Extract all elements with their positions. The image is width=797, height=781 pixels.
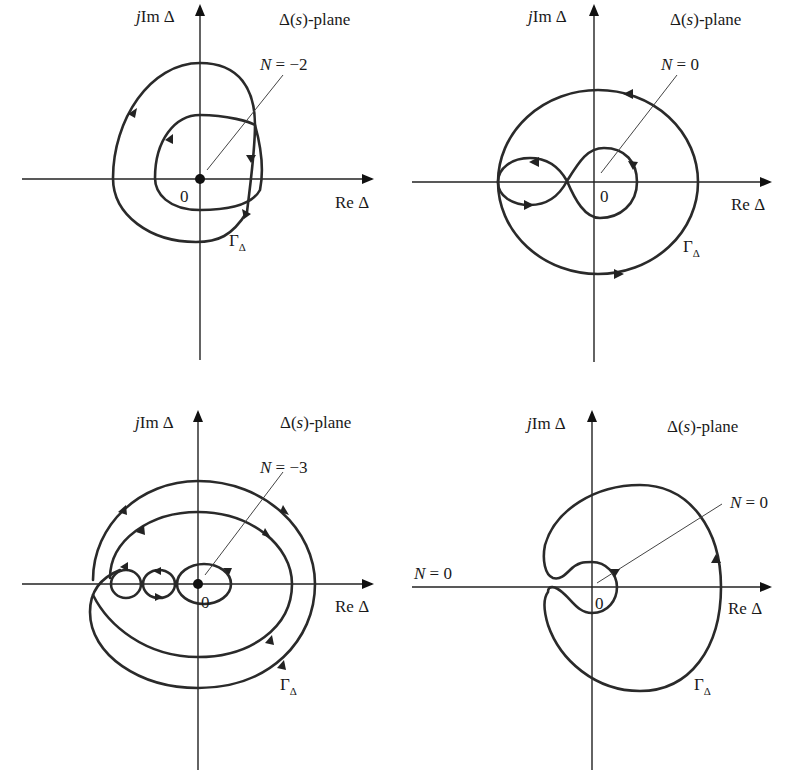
- origin-dot: [195, 174, 205, 184]
- contour-label-main: Γ: [683, 237, 693, 256]
- imag-axis-text: Im Δ: [140, 413, 174, 432]
- plane-label-suffix: )-plane: [693, 10, 741, 29]
- plane-label-prefix: Δ(: [280, 413, 297, 432]
- direction-arrow: [246, 155, 256, 163]
- direction-arrow: [153, 567, 161, 575]
- imag-axis-label: jIm Δ: [135, 414, 174, 431]
- direction-arrow: [262, 528, 271, 538]
- contour-label: ΓΔ: [280, 676, 297, 693]
- plane-label-prefix: Δ(: [667, 417, 684, 436]
- contour-outer: [113, 63, 255, 242]
- origin-label: 0: [180, 188, 189, 205]
- leader-line: [205, 472, 283, 575]
- outer-region-encirclement-label: N = 0: [414, 565, 452, 582]
- encirclement-value: = 0: [425, 564, 452, 583]
- contour-label-main: Γ: [694, 675, 704, 694]
- imag-axis-label: jIm Δ: [136, 8, 175, 25]
- contour-figure-eight: [498, 148, 637, 218]
- imag-axis-label: jIm Δ: [528, 8, 567, 25]
- encirclement-var: N: [260, 458, 271, 477]
- panel-b: [412, 6, 770, 362]
- direction-arrow: [524, 200, 534, 210]
- direction-arrow: [628, 161, 638, 170]
- plane-label: Δ(s)-plane: [670, 11, 741, 28]
- contour-label-sub: Δ: [704, 685, 711, 697]
- contour-label-sub: Δ: [239, 241, 246, 253]
- encirclement-label: N = 0: [661, 56, 699, 73]
- plane-label: Δ(s)-plane: [279, 11, 350, 28]
- origin-dot: [193, 579, 203, 589]
- encirclement-label: N = −2: [260, 56, 308, 73]
- contour-label: ΓΔ: [694, 676, 711, 693]
- origin-label: 0: [595, 595, 604, 612]
- contour-label-main: Γ: [280, 675, 290, 694]
- panel-a: [22, 6, 372, 360]
- real-axis-label: Re Δ: [731, 196, 765, 213]
- origin-label: 0: [201, 594, 210, 611]
- contour-label: ΓΔ: [683, 238, 700, 255]
- plane-label-prefix: Δ(: [670, 10, 687, 29]
- panel-c: [22, 412, 372, 770]
- direction-arrow: [623, 89, 633, 99]
- encirclement-var: N: [414, 564, 425, 583]
- imag-axis-label: jIm Δ: [527, 415, 566, 432]
- encirclement-value: = −3: [271, 458, 307, 477]
- encirclement-var: N: [730, 493, 741, 512]
- direction-arrow: [155, 593, 163, 601]
- real-axis-label: Re Δ: [335, 598, 369, 615]
- plane-label: Δ(s)-plane: [667, 418, 738, 435]
- contour-label-sub: Δ: [693, 247, 700, 259]
- contour-inner: [155, 115, 262, 210]
- real-axis-label: Re Δ: [335, 194, 369, 211]
- plane-label-suffix: )-plane: [303, 413, 351, 432]
- plane-label-suffix: )-plane: [690, 417, 738, 436]
- contour-label-sub: Δ: [290, 685, 297, 697]
- encirclement-value: = −2: [271, 55, 307, 74]
- encirclement-var: N: [661, 55, 672, 74]
- plane-label: Δ(s)-plane: [280, 414, 351, 431]
- panel-d: [412, 412, 770, 770]
- imag-axis-text: Im Δ: [532, 414, 566, 433]
- plane-label-prefix: Δ(: [279, 10, 296, 29]
- nyquist-contour-figure: [0, 0, 797, 781]
- origin-label: 0: [600, 188, 609, 205]
- imag-axis-text: Im Δ: [141, 7, 175, 26]
- imag-axis-text: Im Δ: [533, 7, 567, 26]
- encirclement-label: N = −3: [260, 459, 308, 476]
- real-axis-label: Re Δ: [728, 600, 762, 617]
- contour-label: ΓΔ: [229, 232, 246, 249]
- encirclement-value: = 0: [741, 493, 768, 512]
- encirclement-var: N: [260, 55, 271, 74]
- contour-label-main: Γ: [229, 231, 239, 250]
- plane-label-suffix: )-plane: [302, 10, 350, 29]
- contour-pacman: [544, 485, 721, 691]
- encirclement-label: N = 0: [730, 494, 768, 511]
- encirclement-value: = 0: [672, 55, 699, 74]
- leader-line: [207, 75, 283, 170]
